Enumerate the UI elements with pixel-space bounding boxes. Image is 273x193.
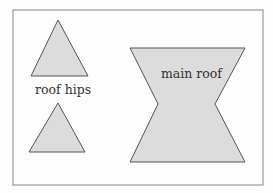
main-roof-label: main roof [161, 66, 222, 81]
roof-hips-label: roof hips [35, 82, 91, 97]
